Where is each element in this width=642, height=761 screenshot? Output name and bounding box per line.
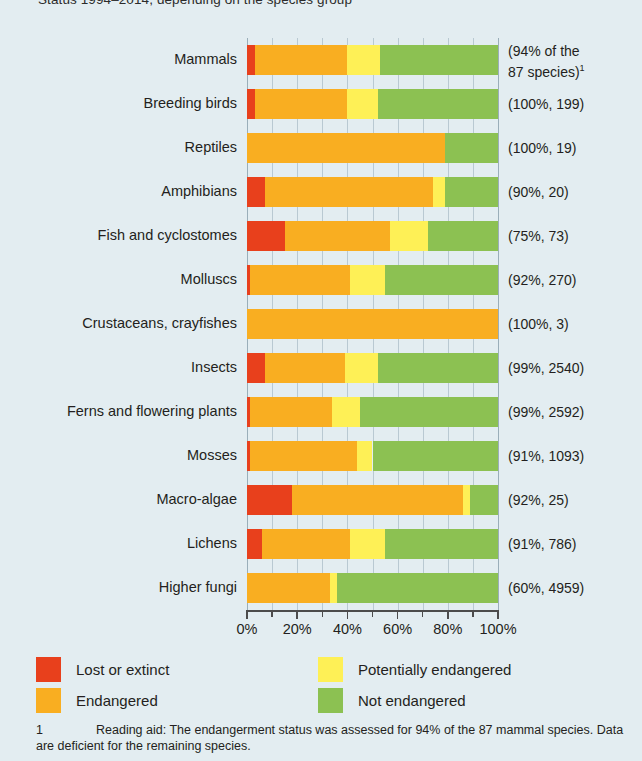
x-axis-tick — [497, 610, 499, 619]
bar-track — [247, 309, 498, 339]
category-label: Ferns and flowering plants — [9, 403, 237, 419]
category-label: Mosses — [9, 447, 237, 463]
bar-segment — [247, 309, 498, 339]
x-axis-tick-label: 0% — [237, 621, 258, 637]
bar-segment — [262, 529, 350, 559]
x-axis-tick — [422, 610, 424, 617]
bar-segment — [247, 529, 262, 559]
x-axis-tick — [397, 610, 399, 619]
footnote-text: Reading aid: The endangerment status was… — [36, 723, 623, 753]
category-label: Insects — [9, 359, 237, 375]
legend-swatch — [36, 657, 61, 682]
bar-segment — [250, 441, 358, 471]
bar-segment — [345, 353, 378, 383]
bar-row — [247, 353, 498, 383]
bar-segment — [350, 265, 385, 295]
bar-segment — [255, 89, 348, 119]
bar-segment — [390, 221, 428, 251]
x-axis-tick — [322, 610, 324, 617]
bar-segment — [247, 353, 265, 383]
bar-track — [247, 265, 498, 295]
x-axis-tick-label: 80% — [433, 621, 462, 637]
category-label: Reptiles — [9, 139, 237, 155]
x-axis-tick-label: 20% — [283, 621, 312, 637]
coverage-annotations: (94% of the87 species)1(100%, 199)(100%,… — [508, 38, 642, 610]
coverage-annotation: (60%, 4959) — [508, 580, 584, 597]
bar-row — [247, 265, 498, 295]
bar-segment — [373, 441, 499, 471]
bar-segment — [428, 221, 498, 251]
category-label: Amphibians — [9, 183, 237, 199]
legend-item[interactable]: Lost or extinct — [36, 657, 169, 682]
bar-segment — [433, 177, 446, 207]
bar-segment — [350, 529, 385, 559]
bar-row — [247, 133, 498, 163]
bar-track — [247, 441, 498, 471]
coverage-annotation: (92%, 25) — [508, 492, 569, 509]
footnote-ref: 1 — [580, 63, 585, 73]
bar-segment — [265, 353, 345, 383]
x-axis-tick — [347, 610, 349, 619]
legend-item[interactable]: Potentially endangered — [318, 657, 511, 682]
bar-track — [247, 485, 498, 515]
x-axis-tick — [372, 610, 374, 617]
chart-page: Status 1994–2014, depending on the speci… — [0, 0, 642, 761]
x-axis-tick-label: 60% — [383, 621, 412, 637]
category-label: Fish and cyclostomes — [9, 227, 237, 243]
x-axis-tick — [271, 610, 273, 617]
coverage-annotation: (99%, 2592) — [508, 404, 584, 421]
bar-segment — [357, 441, 372, 471]
bar-segment — [247, 177, 265, 207]
bar-track — [247, 353, 498, 383]
bar-segment — [445, 133, 498, 163]
bar-segment — [255, 45, 348, 75]
chart-legend: Lost or extinctEndangeredPotentially end… — [36, 657, 616, 713]
category-label: Macro-algae — [9, 491, 237, 507]
legend-label: Potentially endangered — [358, 661, 511, 678]
bar-segment — [247, 221, 285, 251]
bar-segment — [285, 221, 390, 251]
x-axis: 0%20%40%60%80%100% — [247, 610, 498, 640]
x-axis-tick — [296, 610, 298, 619]
category-label: Mammals — [9, 51, 237, 67]
bar-segment — [247, 89, 255, 119]
bar-segment — [385, 265, 498, 295]
x-axis-tick-label: 100% — [479, 621, 516, 637]
coverage-annotation: (91%, 786) — [508, 536, 576, 553]
legend-swatch — [318, 657, 343, 682]
bar-row — [247, 177, 498, 207]
coverage-annotation: (75%, 73) — [508, 228, 569, 245]
coverage-annotation: (90%, 20) — [508, 184, 569, 201]
bar-track — [247, 45, 498, 75]
coverage-annotation: (99%, 2540) — [508, 360, 584, 377]
bar-track — [247, 177, 498, 207]
bar-row — [247, 573, 498, 603]
bar-segment — [247, 133, 445, 163]
bar-segment — [378, 89, 498, 119]
bar-segment — [250, 397, 333, 427]
chart-title: Status 1994–2014, depending on the speci… — [38, 0, 352, 7]
gridline — [498, 38, 499, 610]
legend-label: Endangered — [76, 692, 158, 709]
bar-segment — [247, 45, 255, 75]
bar-segment — [360, 397, 498, 427]
category-label: Molluscs — [9, 271, 237, 287]
x-axis-tick — [246, 610, 248, 619]
bar-track — [247, 89, 498, 119]
coverage-annotation: (100%, 19) — [508, 140, 576, 157]
bar-segment — [250, 265, 350, 295]
x-axis-tick — [472, 610, 474, 617]
bar-segment — [332, 397, 360, 427]
bar-row — [247, 309, 498, 339]
bar-track — [247, 397, 498, 427]
bar-segment — [292, 485, 463, 515]
coverage-annotation: (92%, 270) — [508, 272, 576, 289]
bar-segment — [347, 89, 377, 119]
legend-swatch — [318, 688, 343, 713]
category-label: Higher fungi — [9, 579, 237, 595]
bar-row — [247, 397, 498, 427]
bar-segment — [347, 45, 380, 75]
legend-item[interactable]: Not endangered — [318, 688, 466, 713]
legend-item[interactable]: Endangered — [36, 688, 158, 713]
category-axis-labels: MammalsBreeding birdsReptilesAmphibiansF… — [7, 38, 237, 610]
